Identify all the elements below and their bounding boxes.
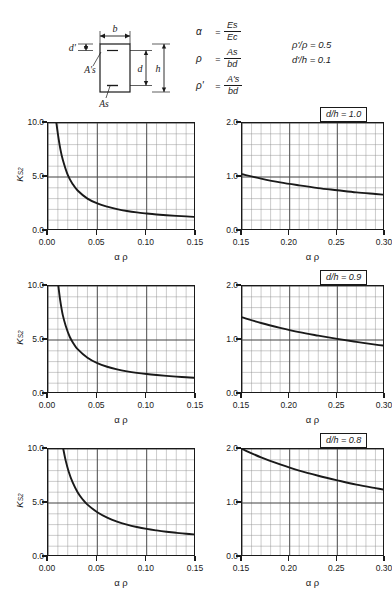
x-tick-mark [240,393,241,398]
section-label-h: h [156,63,161,74]
x-axis-title: α ρ [114,251,128,262]
section-label-d-prime: d' [69,42,77,53]
figure-header: b d' d h A's As α = Es Ec ρ = As [0,0,392,110]
plot-area-right [241,448,384,556]
plot-area-right [241,285,384,393]
definition-equals: = [212,54,224,64]
y-tick-label: 0.0 [226,225,238,235]
y-tick-label: 0.0 [226,388,238,398]
x-tick-mark [96,393,97,398]
figure-root: b d' d h A's As α = Es Ec ρ = As [0,0,392,600]
x-tick-mark [46,230,47,235]
x-tick-mark [46,393,47,398]
y-tick-label: 1.0 [226,334,238,344]
chart-rows: 0.05.010.00.000.050.100.15α ρKS20.01.02.… [0,110,392,599]
y-tick-label: 0.0 [226,551,238,561]
y-tick-label: 1.0 [226,497,238,507]
definition-denominator: bd [225,86,241,97]
y-tick-label: 2.0 [226,443,238,453]
definition-symbol: α [196,26,212,37]
x-tick-mark [383,230,384,235]
y-tick-label: 2.0 [226,280,238,290]
definition-fraction: As bd [224,48,241,69]
x-tick-label: 0.30 [376,400,392,410]
x-tick-mark [145,230,146,235]
x-tick-mark [336,556,337,561]
definition-alpha: α = Es Ec [196,18,288,45]
x-tick-label: 0.15 [233,237,250,247]
definition-numerator: A's [224,75,242,86]
x-tick-label: 0.00 [39,400,56,410]
dh-ratio-tag: d/h = 1.0 [320,107,367,122]
definition-list: α = Es Ec ρ = As bd ρ' = A's [196,18,288,99]
x-tick-mark [383,393,384,398]
chart-panel-left: 0.05.010.00.000.050.100.15α ρKS2 [47,285,195,393]
x-tick-mark [288,393,289,398]
x-tick-label: 0.15 [187,400,204,410]
x-tick-label: 0.25 [328,563,345,573]
y-axis-title-subscript: S2 [17,330,24,338]
dh-ratio-tag: d/h = 0.9 [320,270,367,285]
x-tick-label: 0.05 [88,237,105,247]
x-tick-label: 0.05 [88,563,105,573]
x-tick-label: 0.00 [39,237,56,247]
y-tick-label: 10.0 [27,443,44,453]
definition-denominator: Ec [224,32,241,43]
definition-symbol: ρ' [196,80,212,91]
x-axis-title: α ρ [114,577,128,588]
data-curve [58,286,195,378]
x-tick-mark [383,556,384,561]
definition-denominator: bd [224,59,240,70]
x-tick-mark [336,393,337,398]
x-tick-mark [288,556,289,561]
definition-symbol: ρ [196,53,212,64]
y-axis-title-symbol: K [14,175,25,181]
data-curve [242,449,384,490]
y-tick-label: 10.0 [27,280,44,290]
chart-row: 0.05.010.00.000.050.100.15α ρKS20.01.02.… [0,110,392,273]
x-tick-label: 0.10 [137,563,154,573]
y-axis-title-symbol: K [14,338,25,344]
y-axis-title-symbol: K [14,501,25,507]
y-tick-labels: 0.01.02.0 [214,285,238,393]
x-tick-mark [194,393,195,398]
x-tick-label: 0.10 [137,400,154,410]
x-tick-mark [240,556,241,561]
x-tick-label: 0.30 [376,237,392,247]
y-tick-labels: 0.01.02.0 [214,122,238,230]
x-tick-label: 0.15 [233,400,250,410]
section-label-d: d [138,63,144,74]
x-tick-label: 0.15 [233,563,250,573]
x-tick-mark [336,230,337,235]
definition-rho-prime: ρ' = A's bd [196,72,288,99]
definition-equals: = [212,81,224,91]
x-tick-label: 0.25 [328,400,345,410]
x-tick-mark [96,556,97,561]
chart-panel-left: 0.05.010.00.000.050.100.15α ρKS2 [47,448,195,556]
section-label-as-top: A's [83,65,96,75]
definition-fraction: Es Ec [224,21,241,42]
y-axis-title: KS2 [14,155,25,195]
y-tick-label: 0.0 [32,388,44,398]
chart-row: 0.05.010.00.000.050.100.15α ρKS20.01.02.… [0,273,392,436]
x-tick-mark [96,230,97,235]
x-tick-label: 0.30 [376,563,392,573]
parameter-block: ρ'/ρ = 0.5 d'/h = 0.1 [292,38,331,67]
parameter-dprime-h: d'/h = 0.1 [292,53,331,68]
x-axis-title: α ρ [114,414,128,425]
dh-ratio-tag: d/h = 0.8 [320,433,367,448]
plot-area-left [47,448,195,556]
chart-panel-right: 0.01.02.00.150.200.250.30α ρd/h = 1.0 [241,122,384,230]
x-tick-mark [288,230,289,235]
x-tick-mark [46,556,47,561]
y-axis-title-subscript: S2 [17,493,24,501]
y-tick-labels: 0.01.02.0 [214,448,238,556]
x-tick-label: 0.05 [88,400,105,410]
section-label-as-bottom: As [98,99,109,109]
y-tick-label: 2.0 [226,117,238,127]
x-tick-label: 0.20 [280,400,297,410]
data-curve [242,317,384,345]
x-axis-title: α ρ [306,251,320,262]
y-tick-label: 1.0 [226,171,238,181]
definition-fraction: A's bd [224,75,242,96]
